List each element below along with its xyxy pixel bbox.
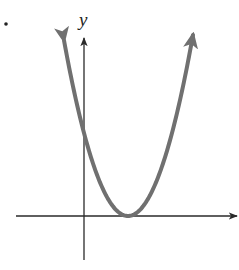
- y-axis-label: y: [77, 9, 88, 30]
- parabola-graph: y: [0, 0, 239, 270]
- bullet-marker: [4, 22, 8, 26]
